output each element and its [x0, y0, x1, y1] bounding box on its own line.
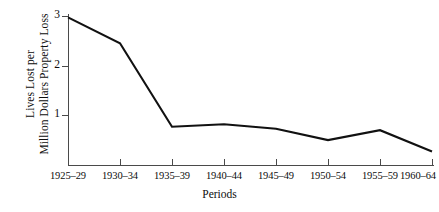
x-tick-mark-1935-39 [172, 159, 173, 166]
line-chart-figure: Lives Lost per Million Dollars Property … [0, 0, 439, 212]
y-axis-line [68, 14, 69, 166]
y-axis-title: Lives Lost per Million Dollars Property … [0, 0, 46, 168]
x-tick-label-1940-44: 1940–44 [196, 170, 252, 181]
x-tick-label-1960-64: 1960–64 [390, 170, 439, 181]
x-tick-mark-1960-64 [432, 159, 433, 166]
x-tick-label-1935-39: 1935–39 [144, 170, 200, 181]
y-tick-label-3: 3 [46, 9, 60, 21]
x-axis-title: Periods [0, 188, 439, 200]
x-tick-label-1925-29: 1925–29 [40, 170, 96, 181]
y-tick-label-2: 2 [46, 59, 60, 71]
y-tick-label-1: 1 [46, 108, 60, 120]
x-tick-mark-1925-29 [68, 159, 69, 166]
x-tick-mark-1950-54 [328, 159, 329, 166]
x-tick-mark-1945-49 [276, 159, 277, 166]
y-tick-mark-2 [62, 66, 69, 67]
x-tick-mark-1930-34 [120, 159, 121, 166]
y-tick-mark-1 [62, 115, 69, 116]
y-tick-mark-3 [62, 16, 69, 17]
x-tick-mark-1955-59 [380, 159, 381, 166]
y-axis-title-line-2: Million Dollars Property Loss [38, 13, 52, 154]
x-tick-label-1930-34: 1930–34 [92, 170, 148, 181]
x-tick-label-1945-49: 1945–49 [248, 170, 304, 181]
y-axis-title-line-1: Lives Lost per [24, 50, 38, 118]
x-tick-label-1950-54: 1950–54 [300, 170, 356, 181]
x-tick-mark-1940-44 [224, 159, 225, 166]
